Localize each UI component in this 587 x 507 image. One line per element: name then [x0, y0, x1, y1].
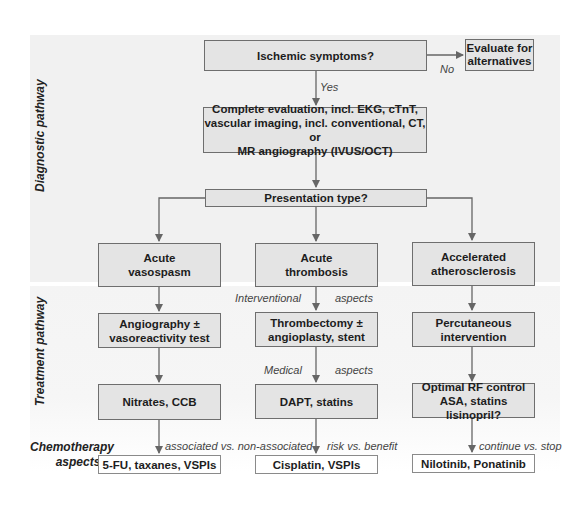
yes-edge-label: Yes [320, 81, 338, 93]
evaluate-line1: Evaluate for [467, 42, 533, 55]
cisplatin-node: Cisplatin, VSPIs [255, 455, 378, 474]
fu-text: 5-FU, taxanes, VSPIs [103, 458, 217, 472]
medical-aspects-label: aspects [335, 364, 373, 376]
athero-line2: atherosclerosis [431, 264, 516, 278]
continue-stop-label: continue vs. stop [479, 440, 562, 452]
dapt-text: DAPT, statins [280, 395, 354, 409]
nilotinib-node: Nilotinib, Ponatinib [412, 454, 535, 473]
complete-evaluation-node: Complete evaluation, incl. EKG, cTnT, va… [203, 107, 427, 153]
athero-line1: Accelerated [431, 250, 516, 264]
thrombectomy-line2: angioplasty, stent [268, 330, 365, 344]
complete-line1: Complete evaluation, incl. EKG, cTnT, [204, 102, 426, 116]
ischemic-symptoms-text: Ischemic symptoms? [257, 49, 374, 63]
thrombectomy-node: Thrombectomy ± angioplasty, stent [255, 312, 378, 347]
risk-benefit-label: risk vs. benefit [327, 440, 397, 452]
optimal-line1: Optimal RF control [413, 380, 534, 394]
evaluate-alternatives-node: Evaluate for alternatives [465, 39, 534, 71]
accelerated-atherosclerosis-node: Accelerated atherosclerosis [412, 242, 535, 286]
angiography-node: Angiography ± vasoreactivity test [98, 313, 221, 348]
angiography-line1: Angiography ± [109, 317, 209, 331]
fu-taxanes-node: 5-FU, taxanes, VSPIs [98, 455, 221, 474]
complete-line3: MR angiography (IVUS/OCT) [204, 144, 426, 158]
no-edge-label: No [440, 63, 454, 75]
nitrates-ccb-node: Nitrates, CCB [98, 384, 221, 420]
optimal-rf-control-node: Optimal RF control ASA, statins lisinopr… [412, 383, 535, 418]
percutaneous-line1: Percutaneous [435, 316, 511, 330]
dapt-statins-node: DAPT, statins [255, 384, 378, 419]
thrombectomy-line1: Thrombectomy ± [268, 316, 365, 330]
interventional-label: Interventional [235, 292, 301, 304]
thrombosis-line2: thrombosis [285, 265, 348, 279]
complete-line2: vascular imaging, incl. conventional, CT… [204, 116, 426, 144]
presentation-type-node: Presentation type? [205, 189, 427, 207]
ischemic-symptoms-node: Ischemic symptoms? [204, 40, 427, 71]
angiography-line2: vasoreactivity test [109, 331, 209, 345]
vasospasm-line2: vasospasm [128, 265, 191, 279]
interventional-aspects-label: aspects [335, 292, 373, 304]
acute-thrombosis-node: Acute thrombosis [255, 243, 378, 287]
vasospasm-line1: Acute [128, 251, 191, 265]
associated-label: associated vs. non-associated [165, 440, 312, 452]
cisplatin-text: Cisplatin, VSPIs [273, 458, 361, 472]
percutaneous-intervention-node: Percutaneous intervention [412, 312, 535, 347]
medical-label: Medical [264, 364, 302, 376]
optimal-line2: ASA, statins lisinopril? [413, 394, 534, 422]
thrombosis-line1: Acute [285, 251, 348, 265]
acute-vasospasm-node: Acute vasospasm [98, 243, 221, 287]
evaluate-line2: alternatives [467, 55, 533, 68]
percutaneous-line2: intervention [435, 330, 511, 344]
presentation-type-text: Presentation type? [264, 191, 368, 205]
nitrates-text: Nitrates, CCB [122, 395, 196, 409]
nilotinib-text: Nilotinib, Ponatinib [421, 457, 526, 471]
